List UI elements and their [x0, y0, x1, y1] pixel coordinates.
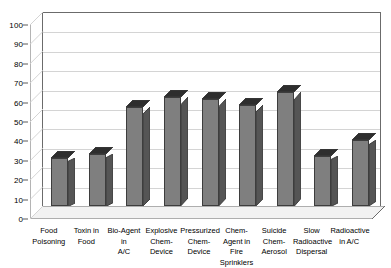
y-axis-tick-label: 80 [14, 59, 23, 68]
bar-side-face [256, 105, 263, 206]
y-axis-tick-label: 30 [14, 156, 23, 165]
x-axis-label-line: Device [143, 247, 181, 258]
y-axis-tick-mark [23, 180, 28, 181]
bar-side-face [294, 92, 301, 206]
x-axis-label-line: Slow [293, 226, 331, 237]
bar-top-face [89, 147, 113, 154]
y-axis-tick-mark [23, 160, 28, 161]
bar-front-face [126, 107, 143, 206]
x-axis-category-label: Bio-Agent inA/C [105, 226, 143, 258]
x-axis-category-label: PressurizedChem-Device [180, 226, 218, 258]
y-axis-tick-label: 10 [14, 195, 23, 204]
bar[interactable] [352, 140, 369, 206]
y-axis: 0102030405060708090100 [0, 0, 30, 268]
bar-side-face [143, 107, 150, 206]
bar-side-face [331, 156, 338, 206]
x-axis-label-line: Fire [218, 247, 256, 258]
x-axis-label-line: Toxin in [68, 226, 106, 237]
bar[interactable] [314, 156, 331, 206]
y-axis-tick-mark [23, 122, 28, 123]
y-axis-tick-mark [23, 63, 28, 64]
y-axis-tick-mark [23, 44, 28, 45]
bar-side-face [106, 154, 113, 206]
x-axis-label-line: Food [68, 237, 106, 248]
bar-front-face [202, 99, 219, 206]
x-axis-category-label: FoodPoisoning [30, 226, 68, 247]
bars-layer [30, 12, 385, 219]
bar[interactable] [89, 154, 106, 206]
y-axis-tick-label: 50 [14, 118, 23, 127]
x-axis-label-line: Device [180, 247, 218, 258]
x-axis-label-line: in A/C [330, 237, 368, 248]
y-axis-tick-label: 20 [14, 176, 23, 185]
y-axis-tick-mark [23, 219, 28, 220]
x-axis-label-line: Chem- [255, 237, 293, 248]
x-axis-category-label: Toxin inFood [68, 226, 106, 247]
bar-side-face [219, 99, 226, 206]
x-axis-label-line: Bio-Agent in [105, 226, 143, 247]
y-axis-tick-mark [23, 141, 28, 142]
x-axis-label-line: Explosive [143, 226, 181, 237]
x-axis-label-line: Radioactive [293, 237, 331, 248]
bar-side-face [68, 158, 75, 207]
x-axis-category-label: SuicideChem-Aerosol [255, 226, 293, 258]
x-axis-label-line: Pressurized [180, 226, 218, 237]
bar[interactable] [202, 99, 219, 206]
bar-top-face [126, 100, 150, 107]
bar-top-face [314, 149, 338, 156]
bar-front-face [239, 105, 256, 206]
bar-front-face [164, 97, 181, 206]
bar-chart: 0102030405060708090100 FoodPoisoningToxi… [0, 0, 391, 268]
x-axis-label-line: Aerosol [255, 247, 293, 258]
bar-top-face [51, 151, 75, 158]
bar-front-face [352, 140, 369, 206]
x-axis-label-line: Dispersal [293, 247, 331, 258]
bar-top-face [352, 133, 376, 140]
y-axis-tick-label: 40 [14, 137, 23, 146]
bar-front-face [51, 158, 68, 207]
bar[interactable] [277, 92, 294, 206]
y-axis-tick-mark [23, 102, 28, 103]
bar-side-face [181, 97, 188, 206]
x-axis-label-line: Agent in [218, 237, 256, 248]
bar-side-face [369, 140, 376, 206]
x-axis-label-line: Food [30, 226, 68, 237]
bar-front-face [277, 92, 294, 206]
x-axis-label-line: A/C [105, 247, 143, 258]
x-axis-category-label: ExplosiveChem-Device [143, 226, 181, 258]
x-axis-label-line: Chem- [218, 226, 256, 237]
y-axis-tick-label: 100 [9, 21, 23, 30]
x-axis-label-line: Sprinklers [218, 258, 256, 268]
bar-front-face [89, 154, 106, 206]
y-axis-tick-mark [23, 83, 28, 84]
bar-top-face [202, 92, 226, 99]
x-axis-category-label: SlowRadioactiveDispersal [293, 226, 331, 258]
x-axis-label-line: Suicide [255, 226, 293, 237]
bar-front-face [314, 156, 331, 206]
x-axis-label-line: Radioactive [330, 226, 368, 237]
bar-top-face [277, 85, 301, 92]
x-axis-label-line: Poisoning [30, 237, 68, 248]
bar[interactable] [126, 107, 143, 206]
x-axis: FoodPoisoningToxin inFoodBio-Agent inA/C… [30, 226, 385, 268]
bar-top-face [239, 98, 263, 105]
bar-top-face [164, 90, 188, 97]
x-axis-label-line: Chem- [180, 237, 218, 248]
y-axis-tick-label: 90 [14, 40, 23, 49]
y-axis-tick-mark [23, 199, 28, 200]
x-axis-label-line: Chem- [143, 237, 181, 248]
y-axis-tick-label: 70 [14, 79, 23, 88]
x-axis-category-label: Chem-Agent inFireSprinklers [218, 226, 256, 268]
y-axis-tick-label: 60 [14, 98, 23, 107]
y-axis-tick-mark [23, 25, 28, 26]
bar[interactable] [239, 105, 256, 206]
bar[interactable] [51, 158, 68, 207]
bar[interactable] [164, 97, 181, 206]
x-axis-category-label: Radioactivein A/C [330, 226, 368, 247]
